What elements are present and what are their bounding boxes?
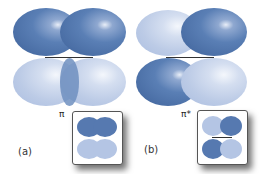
mini-bond-b: [212, 137, 232, 138]
orbital-label-pi: π: [59, 109, 64, 119]
panel-caption-a: (a): [18, 146, 32, 157]
panel-a-pi-bonding: π (a): [0, 0, 136, 174]
orbital-label-pi-star: π*: [181, 109, 191, 119]
inset-a-pi-schematic: [72, 111, 123, 165]
panel-b-pi-antibonding: π* (b): [136, 0, 272, 174]
panel-caption-b: (b): [144, 144, 158, 155]
mini-lobe-a-br: [93, 139, 117, 159]
lobe-a-top-right: [60, 8, 126, 56]
lobe-a-bottom-overlap: [60, 58, 79, 106]
lobe-b-top-right: [181, 8, 247, 56]
lobe-b-bottom-right: [181, 58, 247, 106]
mini-lobe-a-tr: [93, 117, 117, 137]
inset-b-pi-star-schematic: [197, 110, 248, 165]
mini-lobe-b-tr: [220, 116, 242, 136]
mini-lobe-b-br: [220, 139, 242, 159]
